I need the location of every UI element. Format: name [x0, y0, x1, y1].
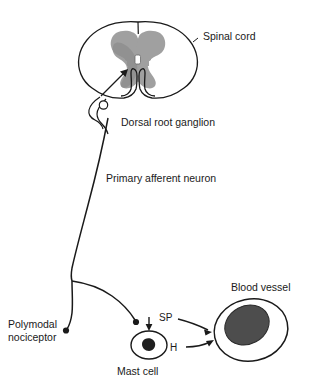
axon-branch-nociceptor [67, 281, 72, 329]
histamine-to-vessel-line [186, 342, 210, 347]
spinal-cord-leader-line [193, 38, 198, 42]
polymodal-nociceptor-label-line1: Polymodal [8, 318, 57, 330]
afferent-axon-trunk [71, 118, 108, 281]
primary-afferent-neuron-label: Primary afferent neuron [106, 172, 216, 184]
axon-branch-mast-cell [72, 281, 135, 320]
mast-cell [131, 331, 167, 359]
spinal-cord-label: Spinal cord [203, 30, 256, 42]
dorsal-root-ganglion-label: Dorsal root ganglion [121, 116, 215, 128]
polymodal-nociceptor-label-line2: nociceptor [8, 331, 57, 343]
dorsal-root-ganglion-cell [99, 101, 107, 109]
sp-release-arrowhead [146, 324, 153, 331]
sp-to-vessel-arrowhead [204, 330, 212, 336]
blood-vessel [208, 292, 293, 368]
polymodal-nociceptor-terminal [63, 327, 69, 333]
mast-cell-label: Mast cell [117, 365, 158, 377]
central-canal [135, 55, 141, 64]
neurogenic-inflammation-diagram: Spinal cord Dorsal root ganglion Primary… [0, 0, 315, 384]
blood-vessel-label: Blood vessel [231, 281, 291, 293]
histamine-to-vessel-arrow [186, 340, 214, 347]
dorsal-root [89, 97, 108, 134]
sp-release-arrow [146, 317, 153, 331]
spinal-cord [79, 22, 198, 98]
substance-p-label: SP [159, 312, 173, 323]
mast-cell-axon-terminal [133, 319, 139, 325]
primary-afferent-axon [63, 118, 139, 334]
histamine-label: H [170, 342, 177, 353]
sp-to-vessel-arrow [178, 319, 212, 336]
sp-to-vessel-line [178, 319, 208, 330]
diagram-canvas: Spinal cord Dorsal root ganglion Primary… [0, 0, 315, 384]
